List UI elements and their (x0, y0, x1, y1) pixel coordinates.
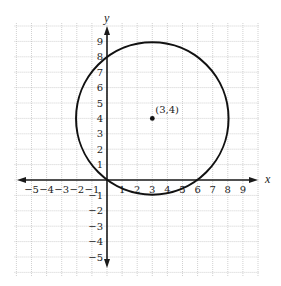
y-tick-label: 9 (97, 36, 103, 47)
y-tick-label: 2 (97, 144, 103, 155)
y-tick-label: 3 (97, 128, 103, 139)
x-axis-arrow-right-icon (249, 177, 258, 183)
x-tick-label: 3 (149, 184, 155, 195)
y-tick-label: 6 (97, 82, 103, 93)
x-tick-label: 8 (225, 184, 231, 195)
x-axis-label: x (264, 172, 271, 186)
y-tick-label: 7 (97, 67, 103, 78)
x-tick-label: 9 (240, 184, 246, 195)
y-tick-label: 5 (97, 98, 103, 109)
x-tick-label: 6 (194, 184, 200, 195)
x-axis-arrow-left-icon (17, 177, 26, 183)
y-tick-label: −4 (88, 236, 103, 247)
x-tick-label: −2 (69, 184, 84, 195)
x-tick-label: 7 (210, 184, 216, 195)
axes: x y (17, 11, 271, 268)
y-axis-arrow-down-icon (104, 259, 110, 268)
y-tick-label: −3 (88, 221, 103, 232)
y-tick-label: 4 (97, 113, 103, 124)
y-axis-arrow-up-icon (104, 26, 110, 35)
coordinate-plane: x y −5−4−3−2−1123456789987654321−1−2−3−4… (0, 0, 281, 286)
y-tick-label: −5 (88, 252, 103, 263)
center-point-label: (3,4) (155, 104, 179, 115)
y-tick-label: −2 (88, 205, 103, 216)
y-tick-label: −1 (88, 190, 103, 201)
x-tick-label: −3 (54, 184, 69, 195)
y-tick-label: 1 (97, 159, 103, 170)
x-tick-label: −4 (39, 184, 54, 195)
center-point (150, 116, 155, 121)
x-tick-label: −5 (24, 184, 39, 195)
y-axis-label: y (103, 11, 110, 25)
